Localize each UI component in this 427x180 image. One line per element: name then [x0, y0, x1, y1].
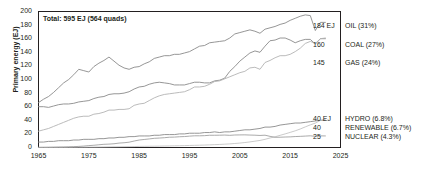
end-value-renewable: 40 [313, 124, 321, 131]
total-annotation: Total: 595 EJ (564 quads) [43, 15, 127, 22]
series-line-coal [39, 38, 326, 107]
legend-label-coal: COAL (27%) [345, 41, 384, 48]
end-value-hydro: 40 EJ [313, 115, 331, 122]
legend-label-nuclear: NUCLEAR (4.3%) [345, 133, 401, 140]
legend-label-hydro: HYDRO (6.8%) [345, 115, 393, 122]
end-value-coal: 160 [313, 41, 325, 48]
plot-frame [39, 12, 341, 148]
end-value-nuclear: 25 [313, 133, 321, 140]
series-lines [39, 15, 326, 147]
legend-label-renewable: RENEWABLE (6.7%) [345, 124, 411, 131]
end-value-gas: 145 [313, 59, 325, 66]
primary-energy-line-chart: Primary energy (EJ) 02040608010012014016… [0, 0, 427, 180]
series-line-oil [39, 15, 326, 103]
series-line-hydro [39, 120, 326, 142]
legend-label-oil: OIL (31%) [345, 22, 377, 29]
end-value-oil: 184 EJ [313, 22, 335, 29]
legend-label-gas: GAS (24%) [345, 59, 380, 66]
series-line-renewable [39, 119, 326, 147]
